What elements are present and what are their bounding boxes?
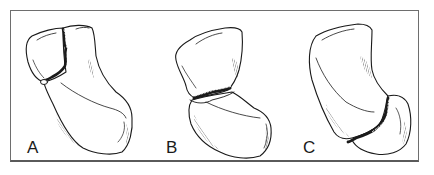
panel-label-a: A [27,139,38,156]
bone-panel-b [176,28,271,158]
bone-lower-b [189,92,271,158]
bone-panel-c [309,24,410,155]
bone-panel-a [26,25,132,154]
panel-label-c: C [303,139,315,156]
bone-body-c [309,24,388,139]
panel-label-b: B [166,139,177,156]
fracture-illustration [0,0,434,175]
fracture-fragment-a [26,28,66,82]
